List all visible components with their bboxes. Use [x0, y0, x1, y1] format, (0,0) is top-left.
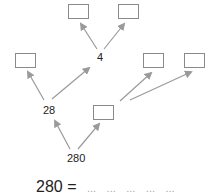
node-280: 280	[67, 152, 85, 164]
factorization-equation: 280 = ... ... ... ... ...	[36, 178, 175, 193]
arrow-28-to-left-box	[28, 72, 44, 100]
equation-blank-1[interactable]: ...	[87, 182, 96, 193]
answer-box-top-left[interactable]	[68, 4, 89, 19]
answer-box-top-right[interactable]	[118, 4, 139, 19]
node-28: 28	[43, 104, 55, 116]
equation-blank-5[interactable]: ...	[165, 182, 174, 193]
arrow-28-to-4	[52, 68, 89, 99]
answer-box-right-b[interactable]	[184, 53, 205, 68]
equation-equals: =	[67, 178, 76, 193]
answer-box-right-a[interactable]	[143, 53, 164, 68]
arrow-4-to-top-right	[104, 24, 124, 49]
arrow-4-to-top-left	[81, 24, 97, 49]
equation-lhs: 280	[36, 178, 63, 193]
arrow-mid-to-right-a	[120, 73, 151, 101]
factor-tree-arrows	[0, 0, 212, 193]
arrow-mid-to-right-b	[130, 72, 191, 100]
answer-box-left[interactable]	[15, 53, 36, 68]
answer-box-middle[interactable]	[93, 105, 114, 120]
arrow-280-to-mid-box	[78, 124, 99, 149]
arrow-280-to-28	[55, 121, 70, 149]
equation-blank-3[interactable]: ...	[126, 182, 135, 193]
equation-blank-2[interactable]: ...	[107, 182, 116, 193]
node-4: 4	[97, 51, 103, 63]
equation-blank-4[interactable]: ...	[146, 182, 155, 193]
